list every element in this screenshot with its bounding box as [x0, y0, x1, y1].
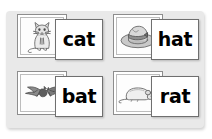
word-label-cat: cat	[63, 30, 95, 50]
word-card-cat[interactable]: cat	[55, 19, 103, 60]
word-card-rat[interactable]: rat	[151, 76, 199, 117]
word-label-hat: hat	[158, 30, 193, 50]
word-label-bat: bat	[62, 87, 97, 107]
word-card-hat[interactable]: hat	[151, 19, 199, 60]
word-card-bat[interactable]: bat	[55, 76, 103, 117]
flashcard-stage: cat	[0, 0, 212, 139]
word-label-rat: rat	[160, 87, 190, 107]
